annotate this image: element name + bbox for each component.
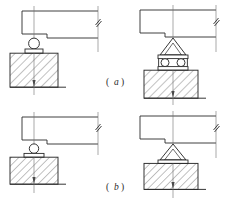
roller-plate-lower-a-right [158, 67, 188, 71]
break-symbol-b-right [214, 111, 220, 158]
beam-b-right [140, 116, 216, 143]
engineering-figure: ( a ) ( b ) [0, 0, 244, 209]
figure-canvas: ( a ) ( b ) [0, 0, 244, 209]
caption-b-label: b [114, 182, 119, 192]
roller-a-right-1 [161, 59, 169, 67]
roller-a-right-2 [177, 59, 185, 67]
beam-a-left [22, 11, 98, 38]
support-block-a-right [144, 70, 198, 98]
view-b-left [10, 112, 102, 193]
support-block-b-right [144, 163, 198, 189]
view-b-right [140, 111, 220, 198]
caption-a-open: ( [106, 77, 109, 88]
roller-plate-upper-a-right [158, 55, 188, 59]
roller-b-left [29, 144, 38, 153]
roller-a-left [29, 38, 40, 49]
bearing-plate-b-left [24, 153, 44, 157]
caption-b-close: ) [121, 182, 124, 193]
caption-a-label: a [114, 77, 119, 87]
break-symbol-b-left [96, 112, 102, 155]
break-symbol-a-left [96, 6, 102, 52]
rocker-a-right [160, 38, 186, 55]
seat-plate-b-right [158, 160, 188, 163]
rocker-b-right [160, 144, 186, 160]
caption-b-open: ( [106, 182, 109, 193]
bearing-plate-a-left [25, 49, 43, 53]
view-a-right [140, 5, 220, 105]
beam-b-left [22, 117, 98, 144]
caption-a-close: ) [121, 77, 124, 88]
view-a-left [10, 6, 102, 95]
caption-a: ( a ) [106, 77, 124, 88]
beam-a-right [140, 10, 216, 37]
caption-b: ( b ) [106, 182, 124, 193]
break-symbol-a-right [214, 5, 220, 52]
